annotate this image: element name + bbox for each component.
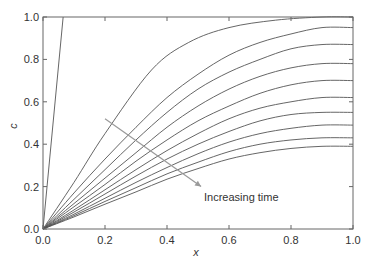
plot-frame (43, 17, 353, 229)
x-tick-label: 0.4 (159, 234, 174, 246)
y-axis-label: c (7, 123, 19, 129)
series-line-t5 (43, 63, 353, 229)
series-line-t7 (43, 97, 353, 229)
series-line-t9 (43, 125, 353, 229)
plot-lines (43, 17, 353, 229)
y-tick-label: 0.4 (24, 138, 39, 150)
series-line-t8 (43, 112, 353, 229)
annotation-arrow (105, 119, 201, 187)
series-line-t3 (43, 27, 353, 229)
y-tick-label: 0.6 (24, 96, 39, 108)
series-line-t2 (43, 17, 353, 229)
chart: Increasing time 0.00.20.40.60.81.0 0.00.… (0, 0, 375, 269)
series-line-t4 (43, 44, 353, 229)
annotation-text: Increasing time (204, 191, 279, 203)
series-line-t1 (43, 17, 63, 229)
arrow-shaft (105, 119, 201, 187)
x-tick-label: 0.0 (35, 234, 50, 246)
series-line-t11 (43, 146, 353, 229)
x-tick-label: 0.2 (97, 234, 112, 246)
x-tick-label: 0.6 (221, 234, 236, 246)
y-tick-label: 0.8 (24, 53, 39, 65)
x-tick-label: 0.8 (283, 234, 298, 246)
y-tick-label: 0.0 (24, 223, 39, 235)
x-tick-label: 1.0 (345, 234, 360, 246)
x-axis-label: x (192, 246, 199, 258)
y-axis-ticks: 0.00.20.40.60.81.0 (24, 11, 353, 235)
y-tick-label: 0.2 (24, 181, 39, 193)
y-tick-label: 1.0 (24, 11, 39, 23)
x-axis-ticks: 0.00.20.40.60.81.0 (35, 17, 360, 246)
arrowhead-icon (195, 181, 202, 187)
